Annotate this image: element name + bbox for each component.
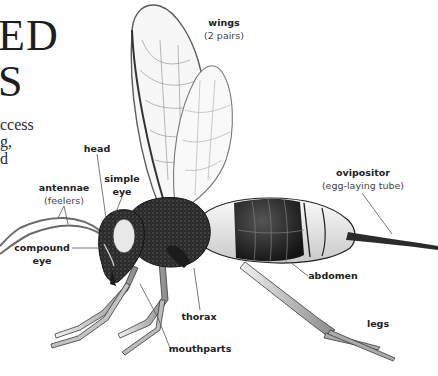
label-mouthparts-name: mouthparts <box>168 342 232 355</box>
label-wings-name: wings <box>202 16 246 29</box>
label-compound-eye-name: compound <box>14 241 70 254</box>
diagram-page: ED S ccess g, d <box>0 0 438 376</box>
label-simple-eye-name2: eye <box>104 185 140 198</box>
label-head: head <box>82 142 112 155</box>
label-simple-eye-name: simple <box>104 172 140 185</box>
label-legs-name: legs <box>364 317 392 330</box>
label-abdomen-name: abdomen <box>308 269 358 282</box>
label-compound-eye: compound eye <box>14 241 70 267</box>
label-wings-note: (2 pairs) <box>202 29 246 42</box>
label-wings: wings (2 pairs) <box>202 16 246 42</box>
head <box>99 210 145 286</box>
label-antennae-note: (feelers) <box>38 194 90 207</box>
label-antennae-name: antennae <box>38 181 90 194</box>
label-mouthparts: mouthparts <box>168 342 232 355</box>
label-ovipositor-note: (egg-laying tube) <box>318 179 408 192</box>
label-head-name: head <box>82 142 112 155</box>
label-abdomen: abdomen <box>308 269 358 282</box>
label-ovipositor: ovipositor (egg-laying tube) <box>318 166 408 192</box>
label-legs: legs <box>364 317 392 330</box>
abdomen <box>198 198 438 263</box>
label-simple-eye: simple eye <box>104 172 140 198</box>
label-antennae: antennae (feelers) <box>38 181 90 207</box>
label-thorax: thorax <box>180 310 218 323</box>
label-compound-eye-name2: eye <box>14 254 70 267</box>
label-ovipositor-name: ovipositor <box>318 166 408 179</box>
label-thorax-name: thorax <box>180 310 218 323</box>
